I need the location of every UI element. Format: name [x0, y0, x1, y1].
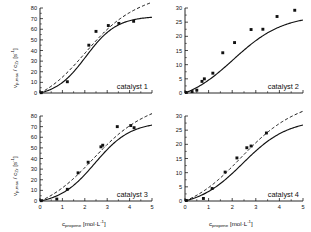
y-tick-label: 20: [31, 177, 37, 183]
data-point-marker: [221, 51, 224, 54]
data-point-marker: [55, 198, 58, 201]
y-tick-label: 20: [176, 33, 182, 39]
y-tick-label: 0: [179, 90, 182, 96]
y-tick-label: 10: [176, 170, 182, 176]
data-point-marker: [129, 124, 132, 127]
x-tick-label: 2: [83, 204, 86, 210]
y-tick-label: 30: [31, 58, 37, 64]
data-point-marker: [66, 80, 69, 83]
axes-catalyst-4: [185, 116, 303, 201]
y-tick-label: 60: [31, 26, 37, 32]
y-axis-unit: [s: [11, 54, 18, 61]
y-tick-label: 40: [31, 156, 37, 162]
y-axis-title-text: v: [11, 85, 18, 88]
y-ticks-catalyst-2: 051015202530: [176, 5, 188, 96]
x-axis-unit-exp-3: -1: [100, 219, 104, 224]
x-axis-title-catalyst-4: cpropene [mol·L-1]: [209, 220, 253, 227]
data-point-marker: [95, 30, 98, 33]
data-point-marker: [293, 9, 296, 12]
axes-catalyst-1: [40, 8, 152, 93]
x-tick-label: 4: [278, 204, 281, 210]
panel-title-catalyst-4: catalyst 4: [268, 190, 299, 199]
y-tick-label: 10: [31, 187, 37, 193]
y-tick-label: 0: [179, 198, 182, 204]
data-point-marker: [185, 91, 188, 94]
data-point-marker: [261, 28, 264, 31]
plot-catalyst-1: 01020304050607080 catalyst 1: [0, 0, 158, 116]
y-ticks-catalyst-4: 051015202530: [176, 113, 188, 204]
y-tick-label: 40: [31, 48, 37, 54]
x-axis-title-catalyst-3: cpropene [mol·L-1]: [62, 220, 106, 227]
data-point-marker: [250, 28, 253, 31]
data-point-marker: [87, 161, 90, 164]
data-point-marker: [211, 187, 214, 190]
data-point-marker: [224, 171, 227, 174]
data-point-marker: [87, 44, 90, 47]
y-tick-label: 80: [31, 5, 37, 11]
y-tick-label: 60: [31, 134, 37, 140]
data-point-marker: [40, 91, 43, 94]
y-tick-label: 30: [176, 113, 182, 119]
y-axis-sub-zr: Zr: [14, 61, 19, 65]
y-tick-label: 70: [31, 124, 37, 130]
x-tick-label: 5: [301, 204, 304, 210]
data-point-marker: [133, 126, 136, 129]
y-tick-label: 15: [176, 156, 182, 162]
four-panel-kinetics-figure: 01020304050607080 catalyst 1 vp,max / cZ…: [0, 0, 311, 232]
x-axis-sub-4: propene: [212, 223, 228, 228]
panel-catalyst-2: 051015202530 catalyst 2: [153, 0, 311, 116]
fit-curve-dashed-catalyst-1: [40, 3, 152, 93]
y-tick-label: 20: [176, 141, 182, 147]
y-tick-label: 25: [176, 127, 182, 133]
y-tick-label: 30: [176, 5, 182, 11]
panel-catalyst-3: 01020304050607080 012345 catalyst 3 vp,m…: [0, 110, 158, 232]
y-tick-label: 10: [31, 79, 37, 85]
data-point-marker: [276, 15, 279, 18]
panel-title-catalyst-3: catalyst 3: [117, 190, 148, 199]
y-axis-mid-3: / c: [11, 173, 18, 181]
data-point-marker: [132, 20, 135, 23]
data-point-marker: [185, 199, 188, 202]
y-tick-label: 5: [179, 184, 182, 190]
data-point-marker: [101, 144, 104, 147]
data-point-marker: [40, 199, 43, 202]
x-axis-unit-close-3: ]: [104, 220, 106, 227]
y-tick-label: 0: [34, 90, 37, 96]
panel-title-catalyst-2: catalyst 2: [268, 82, 299, 91]
y-tick-label: 5: [179, 76, 182, 82]
fit-curve-dashed-catalyst-4: [185, 111, 303, 201]
y-tick-label: 30: [31, 166, 37, 172]
y-axis-mid: / c: [11, 65, 18, 73]
y-tick-label: 50: [31, 145, 37, 151]
data-point-marker: [245, 146, 248, 149]
y-ticks-catalyst-3: 01020304050607080: [31, 113, 43, 204]
panel-catalyst-4: 051015202530 012345 catalyst 4 cpropene …: [153, 110, 311, 232]
data-points-catalyst-4: [185, 132, 268, 202]
y-tick-label: 15: [176, 48, 182, 54]
data-point-marker: [77, 171, 80, 174]
y-tick-label: 0: [34, 198, 37, 204]
data-point-marker: [211, 72, 214, 75]
panel-catalyst-1: 01020304050607080 catalyst 1 vp,max / cZ…: [0, 0, 158, 116]
data-point-marker: [116, 125, 119, 128]
y-tick-label: 20: [31, 69, 37, 75]
data-point-marker: [202, 197, 205, 200]
data-point-marker: [265, 132, 268, 135]
data-point-marker: [191, 90, 194, 93]
plot-catalyst-3: 01020304050607080 012345 catalyst 3: [0, 110, 158, 232]
data-point-marker: [203, 77, 206, 80]
y-axis-title-text-3: v: [11, 193, 18, 196]
y-tick-label: 70: [31, 16, 37, 22]
y-tick-label: 80: [31, 113, 37, 119]
y-axis-sub-pmax: p,max: [14, 73, 19, 85]
data-point-marker: [250, 145, 253, 148]
x-tick-label: 3: [254, 204, 257, 210]
x-axis-unit-3: [mol·L: [81, 220, 100, 227]
data-point-marker: [107, 24, 110, 27]
x-axis-unit-exp-4: -1: [247, 219, 251, 224]
x-tick-label: 0: [183, 204, 186, 210]
y-axis-sub-zr-3: Zr: [14, 169, 19, 173]
y-tick-label: 25: [176, 19, 182, 25]
data-point-marker: [233, 41, 236, 44]
data-point-marker: [117, 22, 120, 25]
